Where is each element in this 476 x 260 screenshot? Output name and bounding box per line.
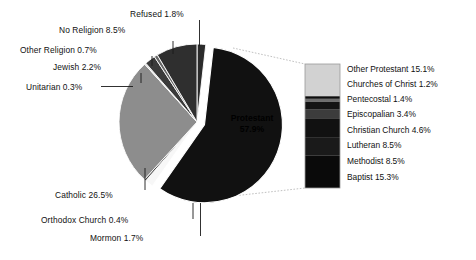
protestant-label-value: 57.9%	[240, 124, 264, 134]
callout-label-catholic: Catholic 26.5%	[55, 190, 113, 200]
legend-item-methodist[interactable]: Methodist 8.5%	[347, 156, 405, 166]
protestant-slice-label: Protestant 57.9%	[216, 113, 288, 134]
legend-item-churches-of-christ[interactable]: Churches of Christ 1.2%	[347, 79, 438, 89]
breakout-segment-churches-of-christ[interactable]	[305, 96, 340, 99]
callout-label-mormon: Mormon 1.7%	[90, 233, 143, 243]
legend-item-lutheran[interactable]: Lutheran 8.5%	[347, 140, 401, 150]
breakout-segment-other-protestant[interactable]	[305, 64, 340, 96]
callout-label-jewish: Jewish 2.2%	[53, 62, 101, 72]
breakout-segment-pentecostal[interactable]	[305, 99, 340, 102]
callout-label-unitarian: Unitarian 0.3%	[26, 82, 82, 92]
legend-item-episcopalian[interactable]: Episcopalian 3.4%	[347, 109, 416, 119]
legend-item-pentecostal[interactable]: Pentecostal 1.4%	[347, 94, 412, 104]
legend-item-christian-church[interactable]: Christian Church 4.6%	[347, 125, 431, 135]
breakout-segment-christian-church[interactable]	[305, 109, 340, 119]
legend-item-baptist[interactable]: Baptist 15.3%	[347, 172, 399, 182]
callout-label-no-religion: No Religion 8.5%	[59, 25, 125, 35]
breakout-segment-methodist[interactable]	[305, 137, 340, 155]
protestant-label-name: Protestant	[231, 113, 274, 123]
callout-label-other-religion: Other Religion 0.7%	[20, 45, 97, 55]
legend-item-other-protestant[interactable]: Other Protestant 15.1%	[347, 64, 435, 74]
religion-pie-chart-figure: Refused 1.8% No Religion 8.5% Other Reli…	[0, 0, 476, 260]
callout-label-orthodox-church: Orthodox Church 0.4%	[41, 215, 128, 225]
callout-label-refused: Refused 1.8%	[130, 9, 184, 19]
protestant-breakout-bar	[305, 64, 340, 188]
breakout-segment-baptist[interactable]	[305, 155, 340, 188]
breakout-segment-episcopalian[interactable]	[305, 102, 340, 109]
pie-slice-refused[interactable]	[197, 44, 206, 122]
breakout-segment-lutheran[interactable]	[305, 119, 340, 137]
